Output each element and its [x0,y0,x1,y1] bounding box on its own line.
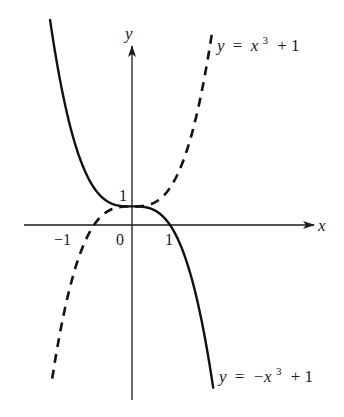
y-tick-1: 1 [119,187,127,204]
x-axis-label: x [317,216,326,235]
label-neg-cubic-plus-one: y = −x 3 + 1 [217,360,313,386]
y-axis-label: y [123,24,133,43]
x-tick-1: 1 [165,231,173,248]
x-tick-0: 0 [116,231,124,248]
graph-canvas: x y −1 0 1 1 y = x 3 + 1 y = −x 3 + 1 [0,0,344,417]
x-tick-neg1: −1 [54,231,71,248]
label-cubic-plus-one: y = x 3 + 1 [215,29,300,55]
